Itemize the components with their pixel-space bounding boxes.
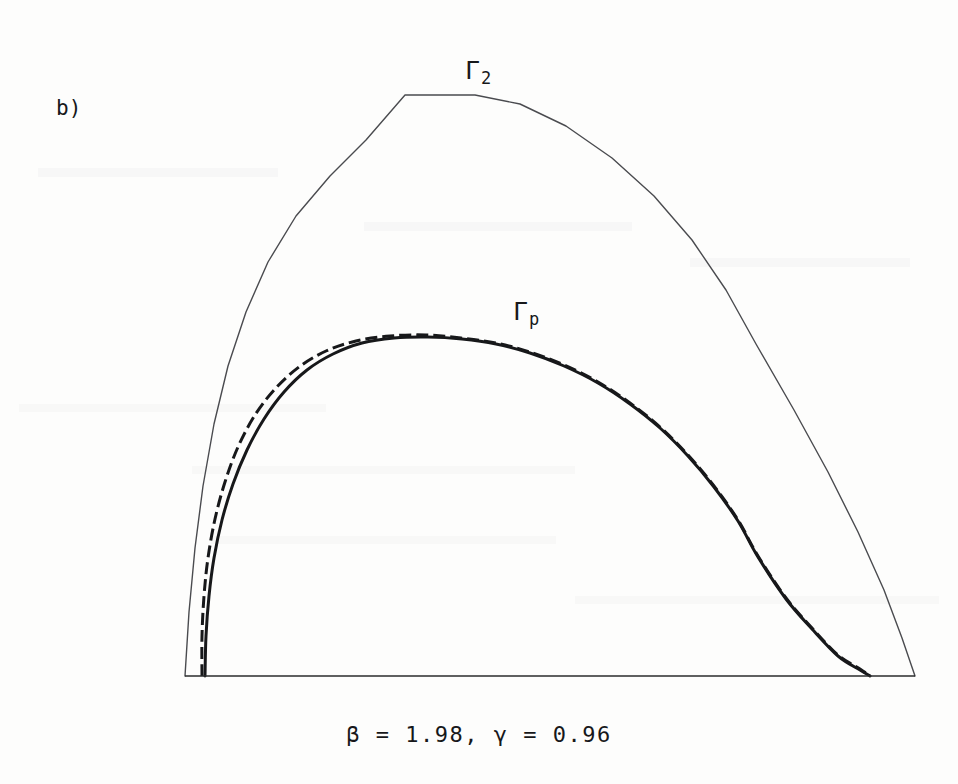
curve-plot (0, 0, 958, 784)
inner-boundary-curve-solid (205, 337, 870, 676)
inner-curve-label: Γp (513, 297, 539, 329)
panel-label: b) (56, 96, 81, 120)
inner-boundary-curve-dashed (202, 335, 870, 676)
curve-group (185, 95, 915, 676)
outer-boundary-curve (185, 95, 915, 676)
outer-curve-label-symbol: Γ (465, 56, 480, 85)
outer-curve-label-subscript: 2 (481, 68, 491, 88)
inner-curve-label-subscript: p (529, 309, 539, 329)
inner-curve-label-symbol: Γ (513, 297, 528, 326)
figure-caption: β = 1.98, γ = 0.96 (0, 722, 958, 747)
outer-curve-label: Γ2 (465, 56, 491, 88)
figure-panel: b) Γ2 Γp β = 1.98, γ = 0.96 (0, 0, 958, 784)
